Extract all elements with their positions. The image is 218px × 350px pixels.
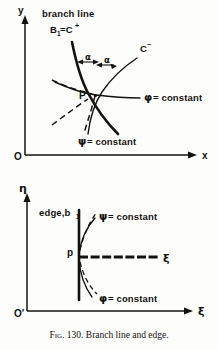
angle-alpha-left: α xyxy=(77,52,99,65)
figure-page: y x O branch line B 1 =C + C − P xyxy=(0,0,218,350)
angle-alpha-right: α xyxy=(96,55,117,69)
lower-panel-diagram: η ξ O′ edge,b 1 ξ p ψ = constant φ xyxy=(0,178,218,333)
figure-caption-text: Branch line and edge. xyxy=(86,330,169,340)
xi-axis-label: ξ xyxy=(198,305,205,318)
phi-symbol: φ xyxy=(144,91,152,103)
psi-constant-curve-lower xyxy=(79,218,95,254)
origin-label: O xyxy=(14,151,22,162)
phi-constant-text-lower: = constant xyxy=(108,293,158,304)
y-axis-label: y xyxy=(18,5,24,16)
phi-constant-label-group: φ = constant xyxy=(144,91,203,103)
psi-symbol: ψ xyxy=(78,135,86,147)
branch-line-equals: =C xyxy=(60,24,73,35)
branch-line-label: branch line xyxy=(42,8,94,19)
lower-origin-label: O′ xyxy=(14,308,25,319)
eta-axis xyxy=(24,193,31,311)
x-axis-label: x xyxy=(202,150,208,161)
edge-label: edge,b xyxy=(39,207,71,218)
branch-line-superscript: + xyxy=(75,22,79,29)
figure-caption: Fig. 130. Branch line and edge. xyxy=(0,330,218,340)
branch-line-curve xyxy=(72,42,118,134)
phi-constant-text: = constant xyxy=(153,92,203,103)
branch-line-name: B xyxy=(50,24,57,35)
c-minus-superscript: − xyxy=(147,41,151,48)
phi-symbol-lower: φ xyxy=(99,292,107,304)
eta-axis-label: η xyxy=(19,182,27,195)
angle-alpha-right-label: α xyxy=(104,55,110,65)
x-axis xyxy=(25,152,197,159)
point-p-label: P xyxy=(79,90,86,101)
xi-axis xyxy=(27,308,193,315)
psi-constant-label-group-lower: ψ = constant xyxy=(99,210,158,222)
psi-symbol-lower: ψ xyxy=(99,210,107,222)
y-axis xyxy=(22,15,29,155)
point-p-marker xyxy=(94,94,97,97)
psi-constant-text: = constant xyxy=(87,136,137,147)
phi-constant-label-group-lower: φ = constant xyxy=(99,292,158,304)
edge-label-group: edge,b 1 xyxy=(39,207,80,220)
figure-number: Fig. 130. xyxy=(49,330,83,340)
angle-alpha-left-label: α xyxy=(85,52,91,62)
branch-line-equation: B 1 =C + xyxy=(50,22,79,37)
inner-xi-label: ξ xyxy=(163,252,170,265)
c-minus-label: C xyxy=(140,43,147,54)
psi-constant-label-group: ψ = constant xyxy=(78,135,137,147)
phi-constant-curve xyxy=(55,82,140,98)
psi-constant-text-lower: = constant xyxy=(108,211,158,222)
psi-constant-dashed-left xyxy=(52,99,88,125)
upper-panel-diagram: y x O branch line B 1 =C + C − P xyxy=(0,0,218,180)
point-p-label-lower: p xyxy=(67,247,73,258)
